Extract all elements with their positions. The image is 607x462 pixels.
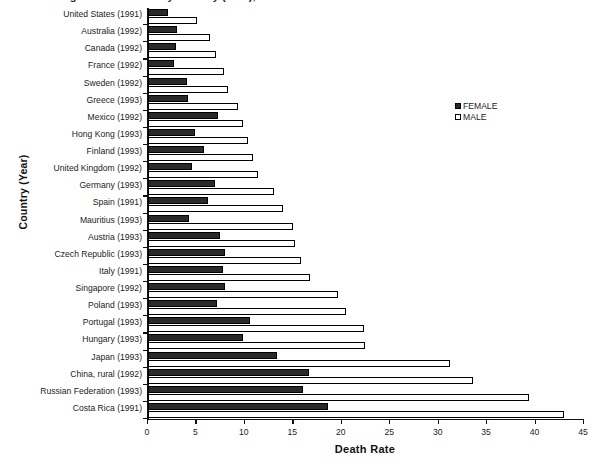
bar-row: Czech Republic (1993) [147,248,583,265]
x-axis-tick-label: 10 [229,427,259,437]
bar-row: Costa Rica (1991) [147,402,583,419]
bar-row: Finland (1993) [147,145,583,162]
x-axis-tick-label: 45 [568,427,598,437]
x-axis-tick-label: 15 [277,427,307,437]
bar-female [148,249,225,256]
chart-title: Figure: Death Rate by Country (Year), Fe… [60,0,339,2]
bar-male [148,34,210,41]
bar-male [148,257,301,264]
bar-female [148,232,220,239]
x-axis-tick [389,419,390,424]
category-label: Singapore (1992) [76,283,142,293]
category-label: Costa Rica (1991) [73,403,142,413]
category-label: Australia (1992) [81,26,142,36]
bar-male [148,308,346,315]
plot-area: United States (1991)Australia (1992)Cana… [147,8,583,419]
category-label: Mauritius (1993) [80,215,142,225]
bar-male [148,274,310,281]
x-axis-tick [341,419,342,424]
category-label: China, rural (1992) [70,369,142,379]
bar-row: Russian Federation (1993) [147,385,583,402]
bar-female [148,26,177,33]
x-axis-line [147,419,583,420]
bar-female [148,403,328,410]
bar-row: Canada (1992) [147,42,583,59]
bar-male [148,154,253,161]
bar-male [148,240,295,247]
bar-row: Austria (1993) [147,231,583,248]
bar-row: Singapore (1992) [147,282,583,299]
bar-male [148,291,338,298]
bar-male [148,394,529,401]
bar-row: Mexico (1992) [147,111,583,128]
bar-male [148,411,564,418]
bar-male [148,360,450,367]
x-axis-tick-label: 20 [326,427,356,437]
bar-male [148,51,216,58]
x-axis-tick-label: 5 [180,427,210,437]
x-axis-tick-label: 40 [520,427,550,437]
bar-male [148,17,197,24]
bar-row: Germany (1993) [147,179,583,196]
legend-label-male: MALE [463,112,486,122]
bar-female [148,334,243,341]
bar-female [148,386,303,393]
bar-female [148,283,225,290]
category-label: Hungary (1993) [82,334,142,344]
bar-row: United States (1991) [147,8,583,25]
bar-female [148,43,176,50]
bar-row: Poland (1993) [147,299,583,316]
bar-male [148,103,238,110]
bar-row: Australia (1992) [147,25,583,42]
category-label: Russian Federation (1993) [40,386,142,396]
bar-female [148,197,208,204]
bar-row: Sweden (1992) [147,77,583,94]
category-label: France (1992) [88,60,142,70]
bar-row: China, rural (1992) [147,368,583,385]
category-label: Italy (1991) [99,266,142,276]
category-label: Czech Republic (1993) [55,249,142,259]
bar-female [148,317,250,324]
bar-female [148,266,223,273]
category-label: Hong Kong (1993) [72,129,142,139]
bar-row: Greece (1993) [147,94,583,111]
bar-female [148,112,218,119]
x-axis-tick [195,419,196,424]
category-label: Portugal (1993) [83,317,142,327]
bar-male [148,137,248,144]
bar-male [148,188,274,195]
x-axis-tick [486,419,487,424]
legend-item-female: FEMALE [455,100,497,111]
category-label: Poland (1993) [88,300,142,310]
legend: FEMALE MALE [455,100,497,122]
bar-female [148,9,168,16]
category-label: Greece (1993) [87,95,142,105]
category-label: Germany (1993) [79,180,142,190]
x-axis-tick [147,419,148,424]
y-axis-title: Country (Year) [17,122,29,262]
x-axis-tick [583,419,584,424]
x-axis-tick [244,419,245,424]
bar-female [148,95,188,102]
bar-row: Portugal (1993) [147,316,583,333]
x-axis-tick [438,419,439,424]
category-label: Finland (1993) [87,146,142,156]
x-axis-tick-label: 25 [374,427,404,437]
female-swatch-icon [455,103,461,109]
category-label: Canada (1992) [85,43,142,53]
legend-label-female: FEMALE [463,101,497,111]
bar-row: France (1992) [147,59,583,76]
x-axis-tick-label: 35 [471,427,501,437]
bar-male [148,86,228,93]
bar-female [148,215,189,222]
bar-male [148,205,283,212]
legend-item-male: MALE [455,111,497,122]
category-label: United Kingdom (1992) [54,163,142,173]
x-axis-title: Death Rate [147,443,583,455]
bar-male [148,120,243,127]
bar-female [148,300,217,307]
clipped-title-strip: Figure: Death Rate by Country (Year), Fe… [0,0,607,7]
x-axis-tick [535,419,536,424]
bar-female [148,352,277,359]
male-swatch-icon [455,114,461,120]
